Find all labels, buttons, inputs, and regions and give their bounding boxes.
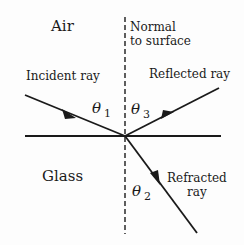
theta1-subscript: 1: [104, 107, 111, 120]
air-label: Air: [51, 19, 74, 34]
incident-ray-arrow-icon: [62, 109, 76, 119]
normal-label-line2: to surface: [130, 34, 191, 48]
glass-label: Glass: [42, 169, 83, 184]
theta2-symbol: θ: [132, 182, 141, 200]
refracted-ray-label-line1: Refracted: [167, 171, 227, 185]
normal-label-line1: Normal: [130, 20, 191, 34]
diagram-canvas: Air Glass Normal to surface Incident ray…: [0, 0, 244, 245]
theta2-label: θ2: [132, 183, 151, 199]
refracted-ray-label-line2: ray: [167, 185, 227, 199]
normal-label: Normal to surface: [130, 20, 191, 48]
theta3-symbol: θ: [131, 100, 140, 118]
theta1-symbol: θ: [92, 99, 101, 117]
theta3-label: θ3: [131, 101, 150, 117]
theta2-subscript: 2: [144, 190, 151, 203]
ray-diagram: [0, 0, 244, 245]
incident-ray-label: Incident ray: [26, 70, 100, 82]
reflected-ray-label: Reflected ray: [149, 68, 230, 80]
refracted-ray-label: Refracted ray: [167, 171, 227, 199]
theta3-subscript: 3: [143, 108, 150, 121]
theta1-label: θ1: [92, 100, 111, 116]
